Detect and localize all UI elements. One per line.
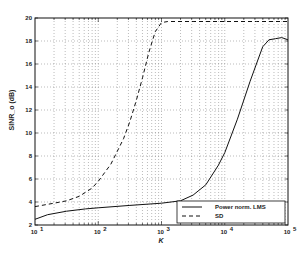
y-tick-label: 4: [29, 199, 33, 205]
x-tick-exponent: 1: [40, 226, 44, 232]
legend: Power norm. LMS SD: [177, 201, 285, 223]
x-axis-label: K: [158, 237, 164, 244]
y-axis-ticks: 2468101214161820: [25, 15, 288, 228]
y-axis-label: SINR_o (dB): [8, 90, 16, 131]
y-tick-label: 2: [29, 222, 33, 228]
x-tick-exponent: 5: [293, 226, 297, 232]
x-tick-label: 10: [157, 229, 164, 235]
plot-frame: [35, 18, 288, 225]
y-tick-label: 6: [29, 176, 33, 182]
x-tick-exponent: 3: [167, 226, 171, 232]
x-axis-ticks: 101102103104105: [31, 226, 297, 235]
x-tick-label: 10: [31, 229, 38, 235]
x-tick-label: 10: [220, 229, 227, 235]
y-tick-label: 14: [25, 84, 32, 90]
x-tick-label: 10: [94, 229, 101, 235]
y-tick-label: 16: [25, 61, 32, 67]
x-tick-exponent: 2: [103, 226, 107, 232]
legend-label-lms: Power norm. LMS: [215, 204, 266, 210]
y-tick-label: 12: [25, 107, 32, 113]
x-tick-label: 10: [284, 229, 291, 235]
grid-lines: [35, 18, 288, 225]
y-tick-label: 8: [29, 153, 33, 159]
x-tick-exponent: 4: [230, 226, 234, 232]
legend-label-sd: SD: [215, 213, 224, 219]
line-chart: 2468101214161820 101102103104105 K SINR_…: [0, 0, 307, 253]
y-tick-label: 20: [25, 15, 32, 21]
y-tick-label: 10: [25, 130, 32, 136]
y-tick-label: 18: [25, 38, 32, 44]
